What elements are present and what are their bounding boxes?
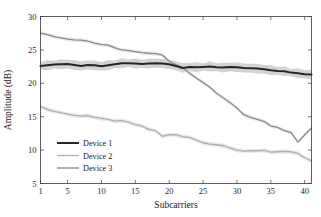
legend-label-device-2: Device 2 [83, 152, 112, 161]
x-tick-label: 10 [97, 186, 106, 196]
confidence-bands [41, 31, 312, 163]
series-line-device-3 [41, 33, 312, 142]
legend-label-device-3: Device 3 [83, 164, 112, 173]
x-tick-label: 30 [233, 186, 242, 196]
x-tick-label: 35 [267, 186, 276, 196]
confidence-band-device-1 [41, 58, 312, 79]
chart-legend: Device 1Device 2Device 3 [57, 139, 112, 173]
y-tick-label: 5 [32, 179, 36, 189]
series-lines [41, 33, 312, 161]
y-tick-label: 25 [28, 45, 37, 55]
x-tick-label: 5 [65, 186, 69, 196]
x-axis-tick-labels: 1510152025303540 [38, 186, 309, 196]
x-tick-label: 25 [199, 186, 208, 196]
figure-container: 1510152025303540 51015202530 Subcarriers… [0, 0, 321, 217]
confidence-band-device-3 [41, 31, 312, 144]
y-axis-tick-labels: 51015202530 [28, 12, 37, 189]
y-tick-label: 30 [28, 12, 37, 22]
y-tick-label: 10 [28, 145, 37, 155]
x-axis-title: Subcarriers [154, 200, 198, 210]
y-tick-label: 20 [28, 78, 37, 88]
legend-label-device-1: Device 1 [83, 139, 112, 148]
y-axis-title: Amplitude (dB) [3, 70, 14, 130]
x-tick-label: 40 [300, 186, 309, 196]
confidence-band-device-2 [41, 105, 312, 164]
x-tick-label: 15 [131, 186, 140, 196]
x-tick-label: 1 [38, 186, 42, 196]
amplitude-vs-subcarriers-chart: 1510152025303540 51015202530 Subcarriers… [0, 0, 321, 217]
y-tick-label: 15 [28, 112, 37, 122]
x-tick-label: 20 [165, 186, 174, 196]
